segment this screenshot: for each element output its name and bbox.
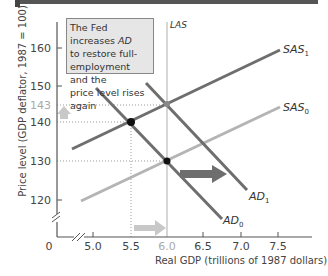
- chart-canvas: 160 150 143 140 130 120 0 5.0 5.5 6.0 6.…: [0, 0, 328, 276]
- x-tick-label-7-0: 7.0: [232, 240, 250, 253]
- ad0-label: AD0: [222, 214, 243, 229]
- x-axis-title: Real GDP (trillions of 1987 dollars): [155, 255, 327, 266]
- y-tick-label-150: 150: [30, 80, 51, 93]
- y-tick-label-120: 120: [30, 194, 51, 207]
- ad1-label: AD1: [248, 190, 269, 205]
- las-label: LAS: [170, 20, 187, 30]
- x-tick-label-5-0: 5.0: [84, 240, 102, 253]
- y-tick-label-160: 160: [30, 42, 51, 55]
- x-tick-label-6-0: 6.0: [158, 240, 176, 253]
- sas1-label-sub: 1: [305, 50, 309, 58]
- annotation-line2: to restore full-: [70, 48, 137, 59]
- y-tick-label-143: 143: [30, 99, 51, 112]
- sas0-label-main: SAS: [283, 101, 305, 114]
- ad1-label-main: AD: [248, 190, 265, 203]
- sas1-label-main: SAS: [283, 43, 305, 56]
- ad0-label-main: AD: [222, 214, 239, 227]
- price-increase-arrow-icon: [57, 106, 71, 119]
- annotation-line1: The Fed increases: [70, 22, 118, 46]
- y-tick-label-130: 130: [30, 155, 51, 168]
- annotation-box: The Fed increases AD to restore full- em…: [66, 18, 154, 74]
- y-axis-title: Price level (GDP deflator, 1987 = 100): [17, 5, 28, 197]
- ad-shift-arrow-icon: [180, 165, 227, 183]
- equilibrium-initial: [127, 118, 135, 126]
- ad1-label-sub: 1: [265, 197, 269, 205]
- x-tick-label-6-5: 6.5: [194, 240, 212, 253]
- sas1-label: SAS1: [283, 43, 309, 58]
- sas0-label: SAS0: [283, 101, 309, 116]
- annotation-ad: AD: [118, 35, 132, 46]
- x-tick-label-5-5: 5.5: [122, 240, 140, 253]
- ad0-label-sub: 0: [239, 221, 243, 229]
- equilibrium-after-shift: [164, 158, 171, 165]
- y-tick-label-140: 140: [30, 116, 51, 129]
- x-tick-label-0: 0: [46, 240, 53, 253]
- equilibrium-new: [164, 101, 170, 107]
- x-tick-label-7-5: 7.5: [269, 240, 287, 253]
- sas0-label-sub: 0: [305, 108, 309, 116]
- gdp-increase-arrow-icon: [134, 220, 166, 236]
